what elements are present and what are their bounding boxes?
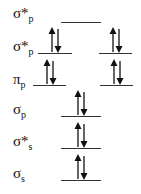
energy-level-line [33,85,66,86]
orbital-subscript: s [29,141,33,152]
orbital-symbol: σ [13,165,21,181]
electron-pair-arrows-icon [74,154,88,180]
orbital-subscript: p [29,46,34,57]
electron-pair-arrows-icon [43,59,57,85]
level-label-sigma-s: σs [13,166,25,181]
electron-pair-arrows-icon [48,27,62,53]
electron-pair-arrows-icon [74,90,88,116]
antibonding-star: * [21,5,29,21]
level-label-sigma-star-p: σ*p [13,39,34,54]
orbital-symbol: σ [13,5,21,21]
orbital-symbol: σ [13,101,21,117]
orbital-symbol: σ [13,133,21,149]
energy-level-line [100,85,133,86]
energy-level-line [61,180,101,181]
electron-pair-arrows-icon [74,122,88,148]
energy-level-line [61,22,101,23]
energy-level-line [99,53,132,54]
level-label-sigma-star-s: σ*s [13,134,33,149]
energy-level-line [61,148,101,149]
orbital-symbol: π [13,71,21,87]
orbital-subscript: p [29,13,34,24]
electron-pair-arrows-icon [109,27,123,53]
energy-level-line [38,53,72,54]
orbital-symbol: σ [13,38,21,54]
orbital-subscript: p [21,79,26,90]
level-label-sigma-star-p-top: σ*p [13,6,34,21]
antibonding-star: * [21,133,29,149]
energy-level-line [61,116,101,117]
level-label-pi-p: πp [13,72,26,87]
electron-pair-arrows-icon [110,59,124,85]
orbital-subscript: s [21,173,25,184]
orbital-subscript: p [21,109,26,120]
antibonding-star: * [21,38,29,54]
level-label-sigma-p: σp [13,102,26,117]
